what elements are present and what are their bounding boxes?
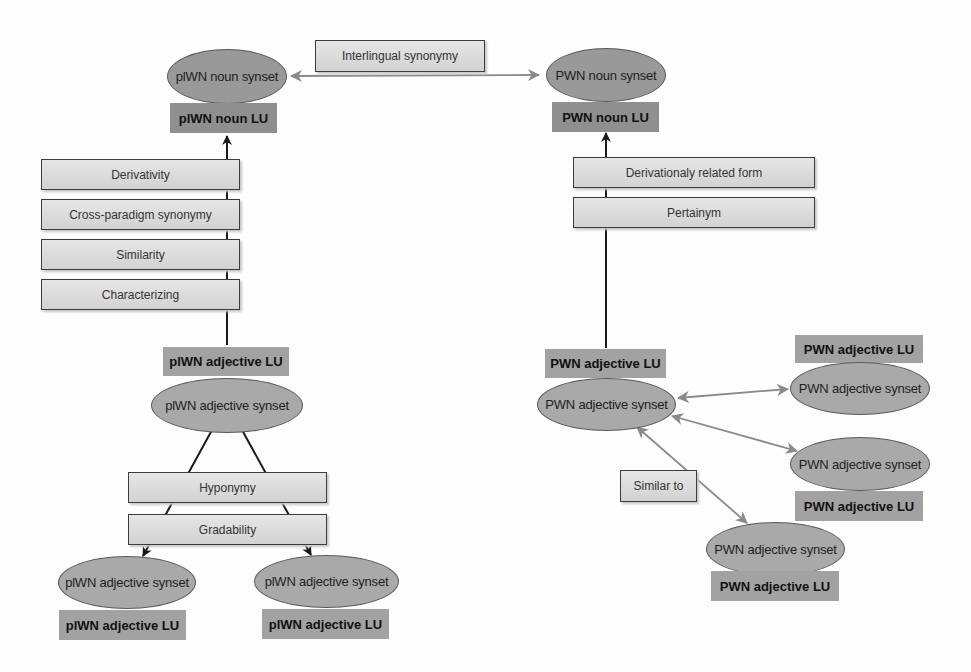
edge-pwn-similar-r1 [678, 389, 788, 398]
node-pwn-adj-lu-r2: PWN adjective LU [795, 491, 923, 521]
node-pwn-adj-lu-main: PWN adjective LU [545, 349, 666, 378]
node-plwn-adj-lu-top: plWN adjective LU [163, 347, 289, 376]
node-plwn-adj-lu-right: plWN adjective LU [262, 609, 389, 639]
edge-pwn-similar-r2 [672, 416, 797, 451]
relation-hyponymy: Hyponymy [128, 472, 327, 503]
relation-pertainym: Pertainym [573, 197, 815, 228]
node-pwn-adj-synset-main: PWN adjective synset [537, 378, 676, 431]
node-pwn-adj-lu-r3: PWN adjective LU [711, 571, 839, 601]
node-plwn-noun-lu: plWN noun LU [170, 103, 277, 133]
node-plwn-adj-lu-left: plWN adjective LU [59, 610, 186, 640]
node-pwn-adj-synset-r3: PWN adjective synset [706, 522, 845, 576]
node-plwn-adj-synset-top: plWN adjective synset [151, 378, 303, 433]
node-pwn-noun-lu: PWN noun LU [552, 102, 659, 132]
node-plwn-adj-synset-left: plWN adjective synset [58, 556, 196, 609]
relation-derivativity: Derivativity [41, 159, 240, 190]
relation-characterizing: Characterizing [41, 279, 240, 310]
relation-cross-paradigm-synonymy: Cross-paradigm synonymy [41, 199, 240, 230]
relation-derivationaly-related-form: Derivationaly related form [573, 157, 815, 188]
node-plwn-noun-synset: plWN noun synset [167, 49, 287, 104]
node-pwn-adj-synset-r1: PWN adjective synset [790, 362, 930, 415]
edge-interlingual-synonymy [291, 75, 539, 76]
node-plwn-adj-synset-right: plWN adjective synset [254, 555, 399, 608]
node-pwn-noun-synset: PWN noun synset [546, 48, 666, 102]
node-pwn-adj-synset-r2: PWN adjective synset [790, 437, 930, 491]
relation-interlingual-synonymy: Interlingual synonymy [315, 40, 485, 72]
relation-similar-to: Similar to [620, 470, 697, 502]
relation-similarity: Similarity [41, 239, 240, 270]
node-pwn-adj-lu-r1: PWN adjective LU [795, 335, 923, 363]
relation-gradability: Gradability [128, 514, 327, 545]
